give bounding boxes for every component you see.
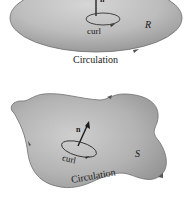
curl-label-top: curl <box>87 27 101 36</box>
normal-label-bottom: n <box>76 126 80 134</box>
region-label: R <box>145 20 151 30</box>
normal-label-top: n <box>100 0 104 4</box>
surface-label: S <box>135 149 140 159</box>
circulation-label-top: Circulation <box>73 55 118 65</box>
